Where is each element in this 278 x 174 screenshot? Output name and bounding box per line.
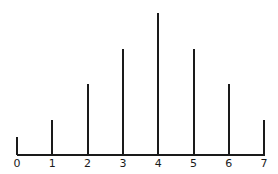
x-tick-label: 3	[117, 158, 129, 169]
stem-bar	[228, 84, 230, 155]
x-tick-label: 5	[188, 158, 200, 169]
x-tick-label: 7	[258, 158, 270, 169]
stem-chart: 01234567	[0, 0, 278, 174]
x-tick-label: 6	[223, 158, 235, 169]
stem-bar	[193, 49, 195, 155]
stem-bar	[157, 13, 159, 155]
stem-bar	[122, 49, 124, 155]
x-tick-label: 1	[46, 158, 58, 169]
stem-bar	[51, 120, 53, 155]
x-tick-label: 4	[152, 158, 164, 169]
x-tick-label: 2	[82, 158, 94, 169]
stem-bar	[263, 120, 265, 155]
stem-bar	[87, 84, 89, 155]
x-tick-label: 0	[11, 158, 23, 169]
stem-bar	[16, 137, 18, 155]
